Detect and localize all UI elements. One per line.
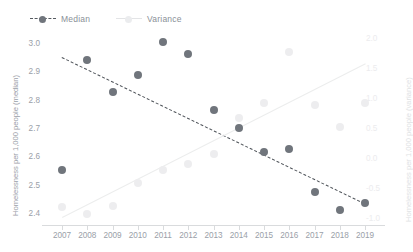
datapoint-median-2011[interactable] xyxy=(159,38,167,46)
trendline-median xyxy=(62,57,365,204)
x-tickmark-2009 xyxy=(113,226,114,230)
datapoint-median-2009[interactable] xyxy=(109,88,117,96)
x-tickmark-2013 xyxy=(214,226,215,230)
y-tick-left-1: 2.9 xyxy=(18,67,40,76)
y-tick-right-2: 1.0 xyxy=(366,94,388,103)
y-tick-left-2: 2.8 xyxy=(18,96,40,105)
x-tick-label-2009: 2009 xyxy=(98,231,128,240)
chart-container: Median Variance Homelessness per 1,000 p… xyxy=(0,0,413,252)
datapoint-variance-2013[interactable] xyxy=(210,150,218,158)
x-tickmark-2014 xyxy=(239,226,240,230)
y-tick-left-3: 2.7 xyxy=(18,124,40,133)
x-tick-label-2016: 2016 xyxy=(274,231,304,240)
y-tick-right-0: 2.0 xyxy=(366,34,388,43)
y-tick-right-4: 0.0 xyxy=(366,154,388,163)
datapoint-median-2012[interactable] xyxy=(184,50,192,58)
x-tick-label-2015: 2015 xyxy=(249,231,279,240)
datapoint-variance-2009[interactable] xyxy=(109,202,117,210)
x-tickmark-2007 xyxy=(62,226,63,230)
legend-label-variance: Variance xyxy=(147,14,182,24)
y-tick-left-0: 3.0 xyxy=(18,39,40,48)
datapoint-variance-2007[interactable] xyxy=(58,203,66,211)
y-tick-right-5: -0.5 xyxy=(366,184,388,193)
y-tick-right-1: 1.5 xyxy=(366,64,388,73)
legend-item-variance[interactable]: Variance xyxy=(116,14,182,24)
datapoint-variance-2008[interactable] xyxy=(83,210,91,218)
x-tick-label-2011: 2011 xyxy=(148,231,178,240)
legend-label-median: Median xyxy=(61,14,90,24)
datapoint-median-2008[interactable] xyxy=(83,56,91,64)
datapoint-median-2019[interactable] xyxy=(361,199,369,207)
datapoint-median-2013[interactable] xyxy=(210,106,218,114)
x-tick-label-2014: 2014 xyxy=(224,231,254,240)
datapoint-variance-2015[interactable] xyxy=(260,99,268,107)
x-tickmark-2018 xyxy=(340,226,341,230)
x-tickmark-2010 xyxy=(138,226,139,230)
x-tickmark-2012 xyxy=(188,226,189,230)
x-tick-label-2013: 2013 xyxy=(199,231,229,240)
x-tick-label-2018: 2018 xyxy=(325,231,355,240)
datapoint-variance-2012[interactable] xyxy=(184,160,192,168)
y-tick-left-6: 2.4 xyxy=(18,209,40,218)
datapoint-variance-2017[interactable] xyxy=(311,101,319,109)
datapoint-variance-2018[interactable] xyxy=(336,123,344,131)
datapoint-median-2017[interactable] xyxy=(311,188,319,196)
chart-legend: Median Variance xyxy=(30,10,182,28)
legend-marker-variance-icon xyxy=(116,14,142,24)
datapoint-variance-2010[interactable] xyxy=(134,179,142,187)
y-tick-left-4: 2.6 xyxy=(18,152,40,161)
legend-marker-median-icon xyxy=(30,14,56,24)
x-tick-label-2012: 2012 xyxy=(173,231,203,240)
x-tickmark-2017 xyxy=(315,226,316,230)
datapoint-median-2014[interactable] xyxy=(235,124,243,132)
x-tickmark-2011 xyxy=(163,226,164,230)
legend-item-median[interactable]: Median xyxy=(30,14,90,24)
x-tick-label-2010: 2010 xyxy=(123,231,153,240)
x-tick-label-2007: 2007 xyxy=(47,231,77,240)
datapoint-variance-2014[interactable] xyxy=(235,114,243,122)
x-axis-tick-labels: 2007200820092010201120122013201420152016… xyxy=(0,0,413,252)
y-tick-right-6: -1.0 xyxy=(366,214,388,223)
data-series-layer xyxy=(0,0,413,252)
x-tick-label-2019: 2019 xyxy=(350,231,380,240)
y-axis-right-title: Homelessness per 1,000 people (variance) xyxy=(404,77,413,222)
datapoint-median-2016[interactable] xyxy=(285,145,293,153)
x-tickmark-2016 xyxy=(289,226,290,230)
datapoint-variance-2016[interactable] xyxy=(285,48,293,56)
x-tickmark-2015 xyxy=(264,226,265,230)
y-tick-right-3: 0.5 xyxy=(366,124,388,133)
x-tick-label-2008: 2008 xyxy=(72,231,102,240)
datapoint-median-2007[interactable] xyxy=(58,166,66,174)
x-tick-label-2017: 2017 xyxy=(300,231,330,240)
trendline-variance xyxy=(62,64,365,218)
datapoint-median-2018[interactable] xyxy=(336,206,344,214)
datapoint-median-2010[interactable] xyxy=(134,71,142,79)
datapoint-median-2015[interactable] xyxy=(260,148,268,156)
x-tickmark-2008 xyxy=(87,226,88,230)
x-axis-line xyxy=(42,225,385,226)
x-axis-tickmarks xyxy=(0,0,413,252)
y-tick-left-5: 2.5 xyxy=(18,181,40,190)
x-tickmark-2019 xyxy=(365,226,366,230)
datapoint-variance-2011[interactable] xyxy=(159,166,167,174)
